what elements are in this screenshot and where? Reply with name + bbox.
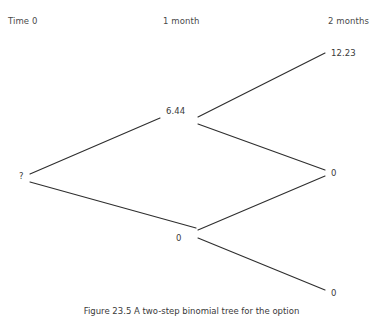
tree-edge-up-to-up-up [198, 53, 325, 117]
tree-edges [0, 0, 383, 317]
tree-node-root: ? [19, 171, 24, 181]
binomial-tree-figure: Time 0 1 month 2 months ? 6.44 0 12.23 0… [0, 0, 383, 317]
tree-edge-down-to-up-down [198, 176, 325, 230]
tree-edge-root-to-down [30, 182, 196, 228]
figure-caption: Figure 23.5 A two-step binomial tree for… [0, 306, 383, 316]
tree-edge-up-to-up-down [198, 124, 325, 170]
tree-node-up-up: 12.23 [331, 48, 356, 58]
tree-edge-down-to-down-down [198, 238, 325, 290]
tree-edge-root-to-up [30, 118, 160, 174]
tree-node-up: 6.44 [166, 106, 185, 116]
tree-node-up-down: 0 [331, 168, 337, 178]
tree-node-down: 0 [176, 233, 182, 243]
tree-node-down-down: 0 [331, 288, 337, 298]
